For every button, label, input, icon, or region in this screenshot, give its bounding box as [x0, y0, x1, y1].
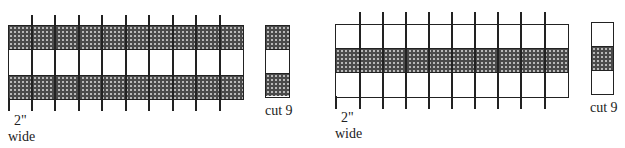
right-width-label: 2": [341, 110, 354, 126]
cut-line: [31, 15, 33, 111]
left-width-label-wide: wide: [8, 129, 35, 145]
right-cut-count-label: cut 9: [590, 100, 618, 116]
cut-line: [405, 12, 407, 109]
cut-line: [474, 12, 476, 109]
right-width-label-wide: wide: [335, 126, 362, 142]
left-cut-piece: [265, 25, 290, 98]
piece-dark-bottom: [266, 73, 289, 96]
cut-line: [520, 12, 522, 109]
piece-light-bottom: [592, 71, 613, 93]
cut-line: [195, 15, 197, 111]
cut-line: [544, 12, 546, 109]
left-width-label: 2": [14, 113, 27, 129]
piece-light-top: [592, 23, 613, 46]
piece-dark-top: [266, 26, 289, 50]
piece-dark-middle: [592, 46, 613, 71]
cut-line: [54, 15, 56, 111]
cut-line: [101, 15, 103, 111]
cut-line: [382, 12, 384, 109]
cut-line: [219, 15, 221, 111]
cut-line: [428, 12, 430, 109]
cut-line: [172, 15, 174, 111]
cut-line: [78, 15, 80, 111]
cut-line: [148, 15, 150, 111]
cut-line: [8, 98, 10, 111]
left-cut-count-label: cut 9: [265, 103, 293, 119]
right-cut-piece: [591, 22, 614, 95]
cut-line: [497, 12, 499, 109]
cut-line: [451, 12, 453, 109]
cut-line: [125, 15, 127, 111]
cut-line: [359, 12, 361, 109]
cut-line: [335, 96, 337, 109]
piece-light-middle: [266, 50, 289, 73]
